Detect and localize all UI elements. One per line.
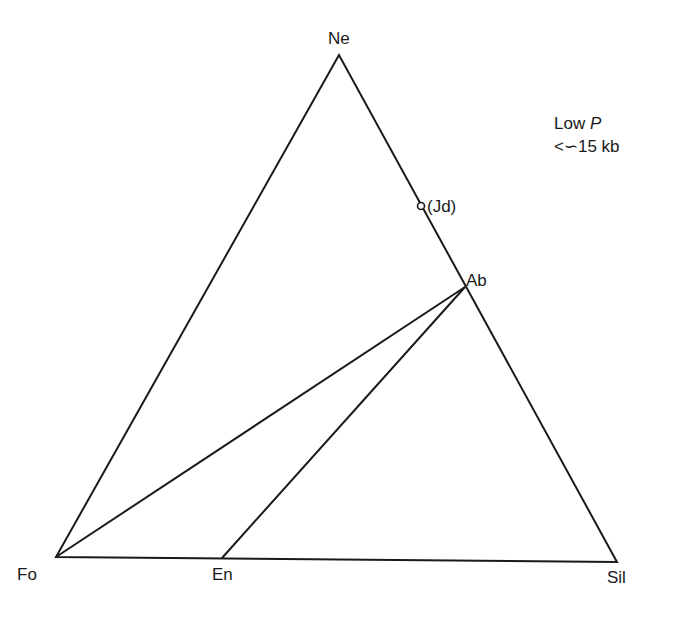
- point-label-en: En: [212, 566, 233, 583]
- pressure-condition-line2: <∽15 kb: [554, 138, 620, 155]
- vertex-label-fo: Fo: [17, 566, 37, 583]
- pressure-condition-line1: Low P: [554, 115, 601, 132]
- point-label-ab: Ab: [466, 272, 487, 289]
- jadeite-point-icon: [418, 203, 425, 210]
- ternary-diagram: [0, 0, 684, 620]
- point-label-jd: (Jd): [427, 198, 456, 215]
- vertex-label-ne: Ne: [328, 30, 350, 47]
- pressure-variable: P: [590, 114, 601, 133]
- pressure-prefix: Low: [554, 114, 590, 133]
- triangle-outline: [56, 55, 617, 562]
- vertex-label-sil: Sil: [607, 569, 626, 586]
